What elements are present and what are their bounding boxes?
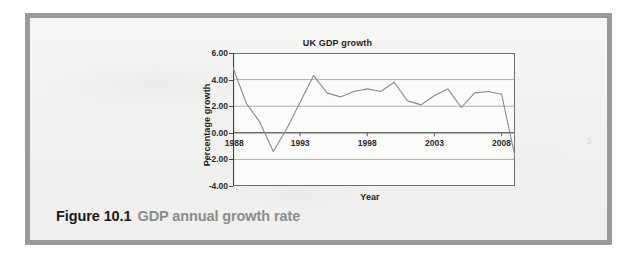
x-tick-label: 1998	[358, 138, 377, 148]
figure-caption-number: Figure 10.1	[56, 208, 131, 224]
y-tick-mark	[229, 133, 233, 134]
x-axis-label: Year	[225, 192, 515, 202]
y-tick-label: 4.00	[211, 75, 228, 85]
x-tick-label: 1988	[225, 138, 244, 148]
plot-area: 6.004.002.000.00-2.00-4.00 1988199319982…	[233, 53, 515, 186]
y-tick-label: 0.00	[211, 128, 228, 138]
figure-frame: 3 UK GDP growth Percentage growth Year 6…	[25, 13, 612, 245]
y-axis-label: Percentage growth	[202, 50, 212, 200]
y-tick-mark	[229, 159, 233, 160]
figure-caption-text: GDP annual growth rate	[137, 208, 300, 224]
figure-caption: Figure 10.1GDP annual growth rate	[56, 208, 300, 224]
y-tick-label: 2.00	[211, 101, 228, 111]
y-tick-label: -4.00	[209, 181, 228, 191]
y-tick-label: 6.00	[211, 48, 228, 58]
y-tick-mark	[229, 186, 233, 187]
y-tick-mark	[229, 53, 233, 54]
page-corner-mark: 3	[586, 136, 591, 146]
figure-root: 3 UK GDP growth Percentage growth Year 6…	[0, 0, 635, 261]
y-tick-mark	[229, 80, 233, 81]
chart-container: UK GDP growth Percentage growth Year 6.0…	[160, 24, 540, 209]
line-chart-svg	[233, 53, 515, 186]
x-tick-label: 1993	[291, 138, 310, 148]
x-tick-label: 2003	[425, 138, 444, 148]
x-tick-label: 2008	[492, 138, 511, 148]
figure-page-surface: 3 UK GDP growth Percentage growth Year 6…	[30, 18, 607, 240]
chart-title: UK GDP growth	[160, 38, 515, 48]
y-tick-mark	[229, 106, 233, 107]
y-tick-label: -2.00	[209, 154, 228, 164]
plot-background	[233, 53, 515, 186]
